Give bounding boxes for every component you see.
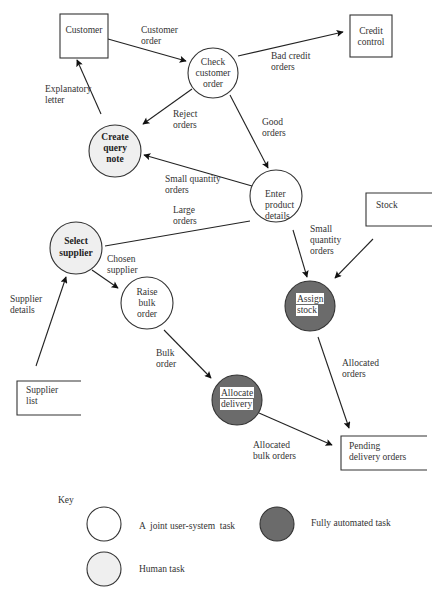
flow-small-quantity-orders: [293, 230, 307, 277]
process-assign-stock: Assignstock: [285, 281, 335, 331]
legend-label: Human task: [139, 564, 185, 574]
flow-supplier-details: [36, 277, 66, 366]
entity-pending-delivery-orders: Pendingdelivery orders: [341, 436, 427, 470]
legend-title: Key: [58, 495, 74, 505]
process-label: Raisebulkorder: [136, 287, 157, 319]
label-small-quantity-orders: Smallquantityorders: [310, 224, 341, 256]
human-task-swatch: [87, 552, 121, 586]
entity-credit-control: Creditcontrol: [350, 15, 392, 57]
label-allocated-orders: Allocatedorders: [342, 358, 379, 379]
entity-label: Stock: [376, 200, 398, 210]
entity-label: Pendingdelivery orders: [349, 441, 407, 462]
process-check-customer-order: Checkcustomerorder: [188, 48, 238, 98]
entity-label: Creditcontrol: [358, 26, 385, 47]
automated-task-swatch: [260, 507, 294, 541]
label-customer-order: Customerorder: [141, 25, 179, 46]
flow-allocated-orders: [318, 337, 349, 428]
entity-label: Supplierlist: [26, 385, 59, 406]
label-small-quantity-to-query: Small quantityorders: [165, 174, 221, 195]
label-chosen-supplier: Chosensupplier: [107, 254, 138, 275]
label-supplier-details: Supplierdetails: [10, 294, 43, 315]
process-raise-bulk-order: Raisebulkorder: [121, 277, 173, 329]
legend-item-joint: A joint user-system task: [87, 507, 235, 541]
label-bulk-order: Bulkorder: [156, 348, 177, 369]
label-large-orders: Largeorders: [173, 205, 197, 226]
label-allocated-bulk-orders: Allocatedbulk orders: [253, 440, 296, 461]
label-good-orders: Goodorders: [262, 117, 286, 138]
entity-customer: Customer: [60, 14, 108, 58]
label-reject-orders: Rejectorders: [173, 109, 198, 130]
joint-task-swatch: [87, 507, 121, 541]
legend-item-automated: Fully automated task: [260, 507, 391, 541]
label-bad-credit-orders: Bad creditorders: [271, 51, 311, 72]
entity-stock: Stock: [366, 193, 432, 226]
legend-label: A joint user-system task: [139, 521, 235, 531]
entity-supplier-list: Supplierlist: [17, 381, 81, 415]
process-enter-product-details: Enterproductdetails: [250, 170, 302, 222]
entity-label: Customer: [66, 25, 104, 35]
process-allocate-delivery: Allocatedelivery: [212, 375, 262, 425]
process-select-supplier: Selectsupplier: [50, 222, 102, 274]
legend-label: Fully automated task: [311, 518, 391, 528]
legend: Key A joint user-system task Fully autom…: [58, 495, 391, 586]
legend-item-human: Human task: [87, 552, 185, 586]
dataflow-diagram: Customerorder Bad creditorders Rejectord…: [0, 0, 444, 603]
process-label: Allocatedelivery: [221, 388, 253, 409]
process-create-query-note: Createquerynote: [89, 125, 141, 177]
label-explanatory-letter: Explanatoryletter: [45, 84, 92, 105]
